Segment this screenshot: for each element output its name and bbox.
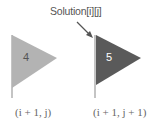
- flag-right-value: 5: [106, 51, 112, 63]
- flag-banner: [96, 35, 141, 85]
- flag-right: [94, 35, 141, 98]
- flag-left-value: 4: [23, 51, 29, 63]
- flag-left: [11, 35, 57, 98]
- flag-banner: [12, 35, 57, 88]
- coord-label-right: (i + 1, j + 1): [93, 106, 146, 118]
- arrow-icon: [77, 22, 93, 38]
- flag-pole: [94, 35, 96, 98]
- coord-label-left: (i + 1, j): [15, 106, 51, 118]
